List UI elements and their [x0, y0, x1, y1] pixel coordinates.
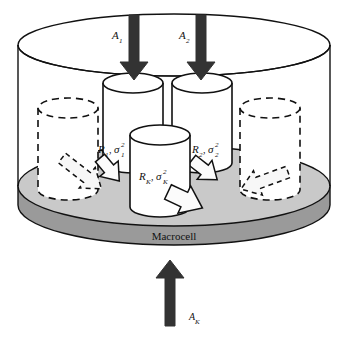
- svg-text:R: R: [138, 170, 146, 182]
- svg-text:2: 2: [121, 141, 125, 149]
- svg-text:,: ,: [203, 144, 206, 155]
- svg-text:2: 2: [163, 168, 167, 176]
- dashed-cylinder-top: [38, 98, 98, 118]
- svg-text:1: 1: [119, 37, 123, 45]
- svg-text:K: K: [162, 178, 168, 186]
- figure-canvas: A 1 A 2 A K R 1 , σ 1 2 R 2 , σ 2 2 R K …: [0, 0, 342, 337]
- macrocell-femtocell-diagram: A 1 A 2 A K R 1 , σ 1 2 R 2 , σ 2 2 R K …: [0, 0, 342, 337]
- svg-text:σ: σ: [114, 143, 120, 155]
- label-AK: A K: [188, 311, 200, 326]
- svg-text:A: A: [178, 29, 186, 41]
- label-A1: A 1: [111, 29, 123, 45]
- svg-text:2: 2: [186, 37, 190, 45]
- macrocell-label: Macrocell: [152, 230, 197, 242]
- macrocell-inner-rim: [18, 45, 330, 76]
- label-A2: A 2: [178, 29, 190, 45]
- svg-text:,: ,: [151, 171, 154, 182]
- svg-text:1: 1: [121, 151, 125, 159]
- svg-text:2: 2: [215, 151, 219, 159]
- arrival-arrow-AK: [156, 260, 184, 326]
- svg-text:R: R: [191, 143, 199, 155]
- arrival-arrow-A1: [120, 15, 148, 80]
- femtocell-K-top: [130, 125, 190, 145]
- svg-text:A: A: [111, 29, 119, 41]
- arrival-arrow-A2: [187, 15, 215, 80]
- svg-text:σ: σ: [156, 170, 162, 182]
- svg-text:R: R: [97, 143, 105, 155]
- svg-text:2: 2: [215, 141, 219, 149]
- svg-text:σ: σ: [208, 143, 214, 155]
- svg-text:1: 1: [105, 151, 109, 159]
- svg-text:,: ,: [109, 144, 112, 155]
- svg-text:K: K: [194, 318, 200, 326]
- dashed-cylinder-top: [240, 98, 300, 118]
